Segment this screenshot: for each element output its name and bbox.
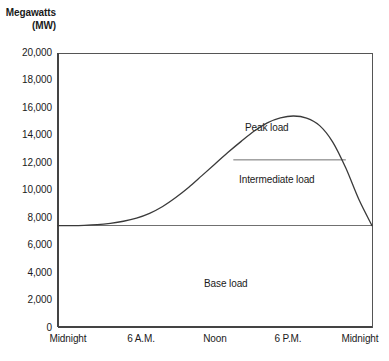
total-load-curve <box>58 116 372 226</box>
plot-area <box>0 0 389 361</box>
plot-frame <box>58 53 372 327</box>
load-curve-chart: Megawatts (MW) 20,000 18,000 16,000 14,0… <box>0 0 389 361</box>
